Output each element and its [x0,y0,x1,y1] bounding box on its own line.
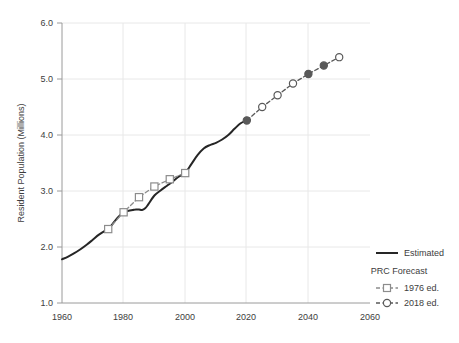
legend-1976-label: 1976 ed. [404,283,439,293]
legend-estimated-label: Estimated [404,248,444,258]
marker-square [105,225,112,232]
x-tick-label-2040: 2040 [298,312,318,322]
marker-circle-open [274,92,281,99]
y-tick-label-3: 3.0 [40,186,53,196]
legend-item-1976: 1976 ed. [376,283,439,293]
y-tick-label-6: 6.0 [40,18,53,28]
x-tick-label-1960: 1960 [52,312,72,322]
legend-group-label: PRC Forecast [371,266,428,276]
marker-circle-open [289,80,296,87]
marker-circle-filled [243,117,250,124]
marker-square [182,169,189,176]
legend-2018-label: 2018 ed. [404,298,439,308]
marker-square [151,183,158,190]
marker-circle-filled [320,62,327,69]
y-tick-label-1: 1.0 [40,298,53,308]
x-tick-label-2060: 2060 [360,312,380,322]
marker-circle-open [336,54,343,61]
y-axis-title: Resident Population (Millions) [16,103,26,222]
y-tick-label-2: 2.0 [40,242,53,252]
population-forecast-chart: 6.0 5.0 4.0 3.0 2.0 1.0 1960 1980 2000 2… [0,0,459,343]
marker-circle-open [259,103,266,110]
legend-item-2018: 2018 ed. [376,298,439,308]
marker-square [135,194,142,201]
legend-2018-marker-circle [383,299,390,306]
x-tick-label-2000: 2000 [175,312,195,322]
x-tick-label-2020: 2020 [236,312,256,322]
x-tick-label-1980: 1980 [113,312,133,322]
marker-square [166,176,173,183]
marker-square [120,209,127,216]
y-tick-label-5: 5.0 [40,74,53,84]
marker-circle-filled [305,70,312,77]
legend-1976-marker-square [384,285,391,292]
y-tick-label-4: 4.0 [40,130,53,140]
